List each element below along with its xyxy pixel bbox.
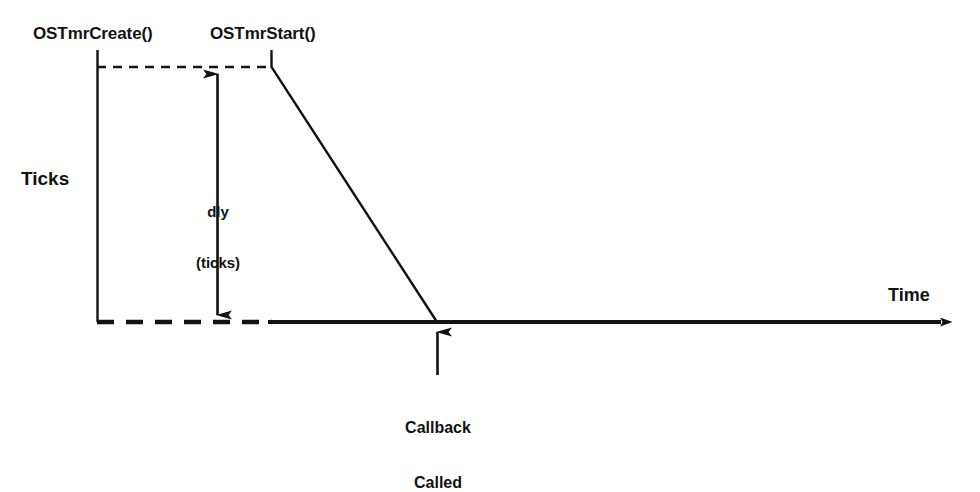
delay-annotation-label: dly (ticks) [177, 168, 259, 306]
delay-annotation-line2: (ticks) [177, 254, 259, 271]
time-axis-label: Time [888, 285, 930, 306]
ticks-axis-label: Ticks [21, 168, 69, 190]
callback-annotation-line1: Callback [382, 419, 494, 437]
callback-annotation-line2: Called [382, 474, 494, 492]
callback-annotation-label: Callback Called [382, 382, 494, 492]
delay-annotation-line1: dly [177, 203, 259, 220]
ostmrstart-label: OSTmrStart() [210, 24, 316, 44]
timer-countdown-ramp [272, 50, 438, 322]
ostmrcreate-label: OSTmrCreate() [33, 24, 153, 44]
